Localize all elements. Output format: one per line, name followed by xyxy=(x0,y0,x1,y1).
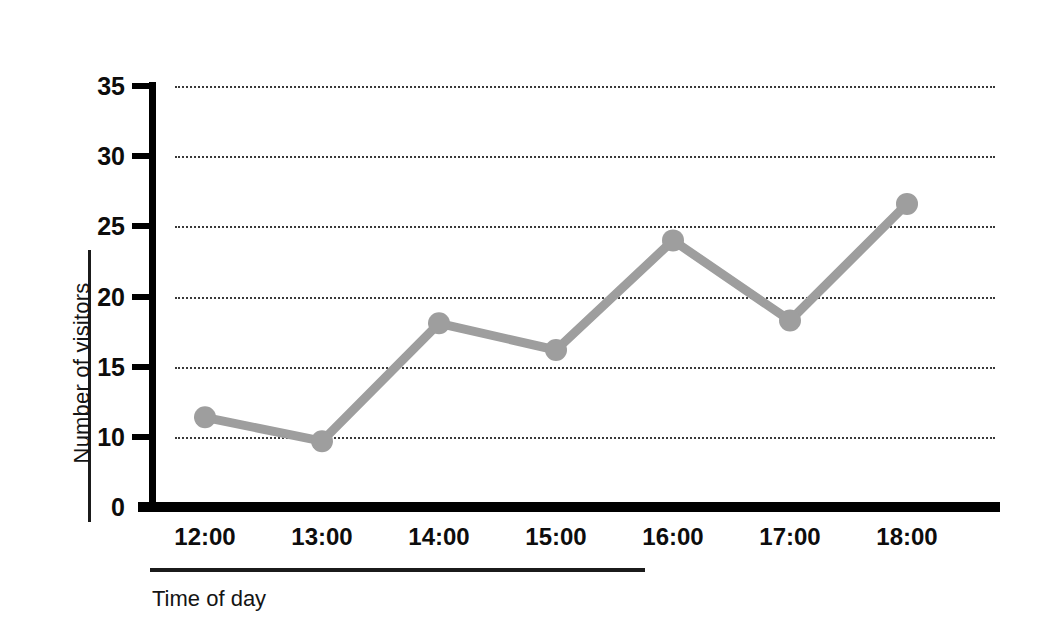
data-point-12-00 xyxy=(194,406,216,428)
data-point-14-00 xyxy=(428,312,450,334)
chart-figure: Number of visitors 0101520253035 12:0013… xyxy=(0,0,1053,633)
data-point-13-00 xyxy=(311,430,333,452)
data-series-layer xyxy=(0,0,1053,633)
data-point-18-00 xyxy=(896,193,918,215)
x-axis-title: Time of day xyxy=(152,586,266,612)
data-point-16-00 xyxy=(662,229,684,251)
data-point-15-00 xyxy=(545,339,567,361)
data-point-17-00 xyxy=(779,310,801,332)
series-markers xyxy=(194,193,918,452)
x-axis-title-rule xyxy=(150,568,645,572)
plot-area: 0101520253035 12:0013:0014:0015:0016:001… xyxy=(0,0,1053,633)
series-line-number-of-visitors xyxy=(205,204,907,441)
